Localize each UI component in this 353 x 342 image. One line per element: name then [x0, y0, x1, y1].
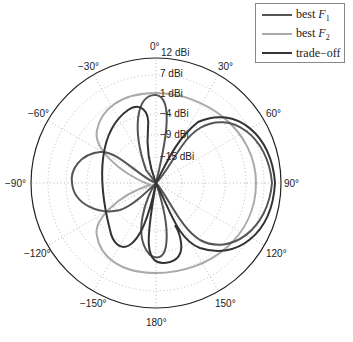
angle-label-m120: −120° [24, 248, 51, 259]
angle-label-60: 60° [266, 108, 281, 119]
legend-item-trade-off: trade−off [262, 44, 341, 62]
angle-label-m30: −30° [78, 61, 99, 72]
angle-label-30: 30° [218, 61, 233, 72]
legend-item-best-f1: best F1 [262, 6, 330, 24]
angle-label-m150: −150° [80, 298, 107, 309]
legend: best F1 best F2 trade−off [255, 3, 345, 63]
radial-label-m15: −15 dBi [160, 151, 194, 162]
angle-label-90: 90° [284, 178, 299, 189]
radial-label-m9: −9 dBi [160, 129, 189, 140]
legend-swatch [262, 33, 292, 35]
radial-label-7: 7 dBi [160, 68, 183, 79]
radial-label-m4: −4 dBi [160, 108, 189, 119]
radial-label-1: 1 dBi [160, 88, 183, 99]
legend-swatch [262, 52, 292, 54]
angle-label-120: 120° [266, 248, 287, 259]
radial-label-12: 12 dBi [161, 47, 189, 58]
legend-label: trade−off [296, 46, 341, 61]
legend-swatch [262, 14, 292, 16]
angle-label-180: 180° [146, 317, 167, 328]
angle-label-0: 0° [150, 41, 160, 52]
angle-label-m60: −60° [28, 108, 49, 119]
legend-label: best F1 [296, 7, 330, 23]
angle-label-m90: −90° [5, 178, 26, 189]
legend-label: best F2 [296, 26, 330, 42]
angle-label-150: 150° [215, 298, 236, 309]
legend-item-best-f2: best F2 [262, 25, 330, 43]
